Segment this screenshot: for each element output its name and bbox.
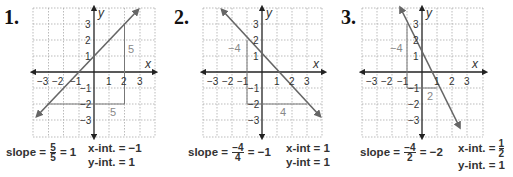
svg-text:2: 2 <box>253 35 259 46</box>
svg-text:−2: −2 <box>248 99 260 110</box>
svg-text:−2: −2 <box>381 76 393 87</box>
svg-text:2: 2 <box>121 76 127 87</box>
svg-text:x: x <box>312 57 320 71</box>
intercepts: x-int. = −1 y-int. = 1 <box>88 141 142 169</box>
svg-text:x: x <box>144 57 152 71</box>
svg-text:1: 1 <box>85 51 91 62</box>
svg-text:3: 3 <box>304 76 310 87</box>
graph-1: x y −3 −2 −1 1 2 3 3 2 1 −1 −2 −3 5 5 <box>0 0 171 140</box>
svg-text:5: 5 <box>128 43 134 55</box>
svg-text:2: 2 <box>427 90 433 102</box>
svg-text:−1: −1 <box>248 83 260 94</box>
svg-text:2: 2 <box>85 35 91 46</box>
problem-1: 1. x y −3 −2 −1 1 2 3 3 2 1 −1 −2 −3 5 5 <box>0 0 171 177</box>
svg-text:y: y <box>425 6 433 20</box>
graph-2: x y −3 −2 −1 1 2 3 3 2 1 −1 −2 −3 −4 4 <box>170 0 341 140</box>
svg-text:3: 3 <box>137 76 143 87</box>
svg-text:−4: −4 <box>390 42 403 54</box>
svg-text:1: 1 <box>434 76 440 87</box>
svg-text:−3: −3 <box>37 76 49 87</box>
svg-text:3: 3 <box>464 76 470 87</box>
intercepts: x-int = 1 y-int = 1 <box>286 141 330 169</box>
svg-text:3: 3 <box>85 19 91 30</box>
svg-text:−3: −3 <box>366 76 378 87</box>
svg-text:−2: −2 <box>52 76 64 87</box>
svg-text:y: y <box>265 6 273 20</box>
slope-caption: slope = −44 = −1 <box>188 143 271 162</box>
svg-text:1: 1 <box>413 51 419 62</box>
svg-text:−3: −3 <box>80 115 92 126</box>
svg-text:2: 2 <box>449 76 455 87</box>
svg-text:1: 1 <box>253 51 259 62</box>
problem-3: 3. x y −3 −2 −1 1 2 3 3 2 1 −1 −2 −3 −4 … <box>340 0 511 177</box>
svg-text:2: 2 <box>289 76 295 87</box>
svg-text:y: y <box>97 6 105 20</box>
svg-text:−3: −3 <box>248 115 260 126</box>
svg-text:−2: −2 <box>222 76 234 87</box>
svg-text:−3: −3 <box>207 76 219 87</box>
slope-caption: slope = −42 = −2 <box>360 143 443 162</box>
svg-text:x: x <box>471 57 479 71</box>
problem-2: 2. x y −3 −2 −1 1 2 3 3 2 1 −1 −2 −3 −4 … <box>170 0 341 177</box>
svg-text:5: 5 <box>110 106 116 118</box>
svg-text:3: 3 <box>253 19 259 30</box>
svg-text:4: 4 <box>280 106 286 118</box>
svg-text:1: 1 <box>106 76 112 87</box>
intercepts: x-int. = 12 y-int. = 1 <box>458 139 505 172</box>
svg-text:−2: −2 <box>80 99 92 110</box>
svg-text:3: 3 <box>413 19 419 30</box>
svg-text:−4: −4 <box>228 42 241 54</box>
svg-text:1: 1 <box>274 76 280 87</box>
graph-line <box>223 11 319 115</box>
graph-3: x y −3 −2 −1 1 2 3 3 2 1 −1 −2 −3 −4 2 <box>340 0 513 140</box>
svg-text:−1: −1 <box>80 83 92 94</box>
svg-text:−3: −3 <box>408 115 420 126</box>
svg-text:−2: −2 <box>408 99 420 110</box>
slope-caption: slope = 55 = 1 <box>6 143 76 162</box>
svg-text:2: 2 <box>413 35 419 46</box>
svg-text:−1: −1 <box>408 83 420 94</box>
